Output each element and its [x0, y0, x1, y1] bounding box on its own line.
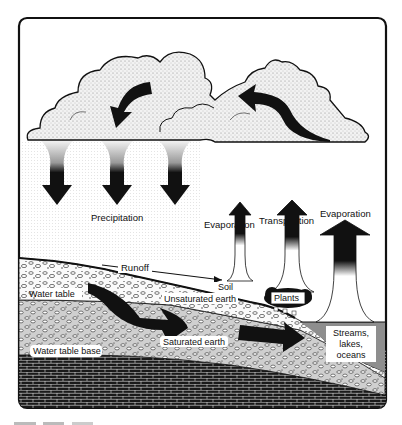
figure-caption-cutoff — [14, 417, 374, 425]
water-table-base-label: Water table base — [33, 346, 101, 356]
water-table-label: Water table — [29, 289, 75, 299]
soil-label: Soil — [218, 282, 233, 292]
saturated-earth-label: Saturated earth — [163, 337, 225, 347]
water-cycle-diagram: Precipitation Evaporation Transpiration … — [0, 0, 402, 425]
streams-label-line2: lakes, — [339, 339, 363, 349]
transpiration-label: Transpiration — [259, 215, 314, 226]
evaporation-soil-label: Evaporation — [204, 219, 255, 230]
streams-label-line3: oceans — [336, 350, 366, 360]
streams-label-line1: Streams, — [333, 328, 369, 338]
evaporation-water-label: Evaporation — [320, 208, 371, 219]
precipitation-arrows — [40, 140, 192, 205]
unsaturated-earth-label: Unsaturated earth — [164, 294, 236, 304]
plants-label: Plants — [274, 293, 300, 303]
runoff-label: Runoff — [121, 262, 149, 273]
precipitation-label: Precipitation — [91, 212, 143, 223]
